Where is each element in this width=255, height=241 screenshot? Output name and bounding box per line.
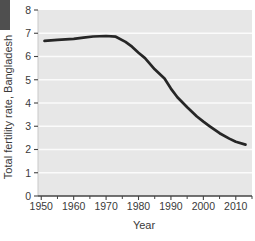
x-axis-title: Year	[133, 219, 156, 231]
x-tick-label: 2000	[192, 200, 216, 212]
x-tick-label: 1980	[127, 200, 151, 212]
y-tick-label: 2	[25, 143, 31, 155]
y-tick-label: 1	[25, 167, 31, 179]
y-tick-label: 6	[25, 50, 31, 62]
figure-page: 0123456781950196019701980199020002010 To…	[0, 0, 255, 241]
x-tick-label: 1970	[94, 200, 118, 212]
x-tick-label: 1960	[62, 200, 86, 212]
y-tick-label: 5	[25, 74, 31, 86]
x-tick-label: 2010	[224, 200, 248, 212]
y-tick-label: 4	[25, 97, 31, 109]
y-tick-label: 7	[25, 27, 31, 39]
x-tick-label: 1990	[159, 200, 183, 212]
x-tick-label: 1950	[30, 200, 54, 212]
y-tick-label: 8	[25, 4, 31, 16]
fertility-rate-chart: 0123456781950196019701980199020002010 To…	[0, 0, 255, 241]
y-axis-title: Total fertility rate, Bangladesh	[2, 35, 14, 179]
y-tick-label: 3	[25, 120, 31, 132]
plot-layer: 0123456781950196019701980199020002010	[25, 4, 252, 212]
chapter-corner-tab	[0, 0, 10, 30]
